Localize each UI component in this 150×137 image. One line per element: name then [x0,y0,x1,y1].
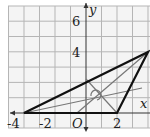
x-tick-2: 2 [113,116,121,131]
y-tick-4: 4 [72,45,80,60]
x-axis-label: x [140,96,148,111]
coordinate-plane: y x 6 4 -4 -2 O 2 [0,0,150,137]
y-axis-down-arrow-icon [84,127,89,132]
y-axis-label: y [88,2,97,17]
x-tick-neg4: -4 [7,116,20,131]
origin-label: O [72,116,83,131]
x-tick-neg2: -2 [39,116,52,131]
y-tick-6: 6 [72,14,80,29]
